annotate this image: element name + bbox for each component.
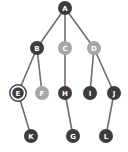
- tree-diagram: ABCDEFHIJKGL: [0, 0, 128, 152]
- node-label: K: [28, 133, 34, 141]
- node-C[interactable]: C: [58, 41, 72, 55]
- node-E[interactable]: E: [10, 85, 26, 101]
- edge-A-D: [65, 8, 94, 48]
- node-label: F: [40, 90, 45, 98]
- node-L[interactable]: L: [99, 129, 113, 143]
- node-J[interactable]: J: [107, 86, 121, 100]
- node-label: E: [16, 90, 21, 98]
- node-K[interactable]: K: [24, 129, 38, 143]
- node-A[interactable]: A: [58, 1, 72, 15]
- node-H[interactable]: H: [58, 86, 72, 100]
- node-F[interactable]: F: [35, 86, 49, 100]
- node-label: I: [89, 90, 92, 98]
- node-D[interactable]: D: [87, 41, 101, 55]
- edge-A-B: [37, 8, 65, 48]
- node-label: A: [62, 5, 68, 13]
- node-G[interactable]: G: [66, 129, 80, 143]
- node-label: H: [62, 90, 68, 98]
- node-label: B: [34, 45, 39, 53]
- node-label: C: [62, 45, 67, 53]
- node-I[interactable]: I: [83, 86, 97, 100]
- node-B[interactable]: B: [30, 41, 44, 55]
- tree-canvas: ABCDEFHIJKGL: [0, 0, 128, 152]
- node-label: G: [70, 133, 76, 141]
- node-label: D: [91, 45, 97, 53]
- edge-D-J: [94, 48, 114, 93]
- node-label: J: [112, 90, 116, 98]
- node-label: L: [104, 133, 109, 141]
- edges-layer: [18, 8, 114, 136]
